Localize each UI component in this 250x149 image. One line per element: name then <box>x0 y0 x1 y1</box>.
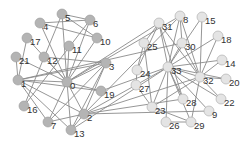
node-label: 30 <box>185 41 196 52</box>
node-label: 9 <box>212 109 217 120</box>
node-label: 23 <box>155 105 166 116</box>
node-label: 12 <box>47 55 58 66</box>
node-label: 14 <box>225 58 236 69</box>
graph-svg: 0123456789101112131415161718192021222324… <box>0 0 250 149</box>
node-label: 29 <box>194 120 205 131</box>
node-label: 4 <box>43 21 48 32</box>
node-label: 19 <box>104 89 115 100</box>
node-label: 13 <box>74 128 85 139</box>
node-label: 8 <box>183 14 188 25</box>
node-label: 11 <box>72 44 82 55</box>
node-label: 25 <box>147 41 158 52</box>
label-layer: 0123456789101112131415161718192021222324… <box>19 12 240 139</box>
node-label: 27 <box>139 83 150 94</box>
node-label: 32 <box>203 75 214 86</box>
node-label: 24 <box>140 68 151 79</box>
graph-edge <box>200 36 218 77</box>
node-label: 31 <box>162 21 173 32</box>
graph-edge <box>166 67 168 122</box>
node-label: 10 <box>100 36 111 47</box>
node-label: 6 <box>93 18 98 29</box>
node-label: 28 <box>186 97 197 108</box>
node-label: 15 <box>205 15 216 26</box>
node-label: 0 <box>70 80 75 91</box>
node-label: 17 <box>30 36 41 47</box>
graph-edge <box>71 67 168 130</box>
node-label: 21 <box>19 55 30 66</box>
graph-edge <box>152 67 168 107</box>
node-label: 20 <box>229 77 240 88</box>
node-label: 16 <box>27 104 38 115</box>
network-graph: 0123456789101112131415161718192021222324… <box>0 0 250 149</box>
node-label: 22 <box>224 97 235 108</box>
node-label: 1 <box>21 78 26 89</box>
node-label: 3 <box>109 61 114 72</box>
node-label: 5 <box>65 12 70 23</box>
node-label: 7 <box>51 120 56 131</box>
node-label: 2 <box>87 112 92 123</box>
node-label: 18 <box>221 34 232 45</box>
node-label: 26 <box>169 120 180 131</box>
graph-edge <box>48 82 67 122</box>
node-label: 33 <box>171 65 182 76</box>
